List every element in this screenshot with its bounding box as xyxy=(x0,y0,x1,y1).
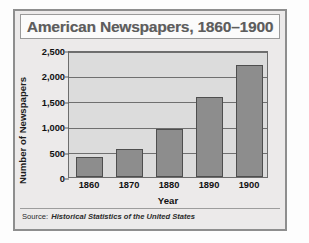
y-axis-label: Number of Newspapers xyxy=(17,88,28,184)
x-axis-tick-label: 1890 xyxy=(199,180,220,190)
y-axis-tick-mark xyxy=(65,102,69,103)
bar-1890 xyxy=(196,97,223,177)
bar-1900 xyxy=(236,65,263,177)
y-axis-tick-label: 1,000 xyxy=(42,123,65,133)
source-divider xyxy=(20,208,280,209)
y-axis-tick-mark xyxy=(65,128,69,129)
x-axis-tick-label: 1870 xyxy=(119,180,140,190)
chart-area: Number of Newspapers 05001,0001,5002,000… xyxy=(20,42,280,227)
page-title: American Newspapers, 1860–1900 xyxy=(27,18,273,36)
x-axis-tick-label: 1880 xyxy=(159,180,180,190)
plot-inner: 05001,0001,5002,0002,5001860187018801890… xyxy=(69,52,267,177)
y-axis-tick-label: 1,500 xyxy=(42,98,65,108)
y-axis-tick-label: 0 xyxy=(60,174,65,184)
plot-frame: 05001,0001,5002,0002,5001860187018801890… xyxy=(68,51,268,178)
bar-1860 xyxy=(76,157,103,177)
y-axis-tick-label: 500 xyxy=(49,149,65,159)
y-axis-tick-mark xyxy=(65,77,69,78)
gridline xyxy=(69,52,267,53)
y-axis-tick-label: 2,500 xyxy=(42,47,65,57)
source-citation: Historical Statistics of the United Stat… xyxy=(51,212,195,221)
y-axis-tick-label: 2,000 xyxy=(42,72,65,82)
y-axis-tick-mark xyxy=(65,52,69,53)
x-axis-tick-label: 1900 xyxy=(239,180,260,190)
source-label: Source: xyxy=(22,212,48,221)
x-axis-tick-label: 1860 xyxy=(79,180,100,190)
bar-1880 xyxy=(156,129,183,177)
y-axis-tick-mark xyxy=(65,153,69,154)
y-axis-tick-mark xyxy=(65,179,69,180)
chart-title-band: American Newspapers, 1860–1900 xyxy=(20,14,280,39)
chart-page: American Newspapers, 1860–1900 Number of… xyxy=(0,0,309,243)
x-axis-label: Year xyxy=(68,195,268,206)
source-note: Source:Historical Statistics of the Unit… xyxy=(22,212,195,221)
bar-1870 xyxy=(116,149,143,177)
